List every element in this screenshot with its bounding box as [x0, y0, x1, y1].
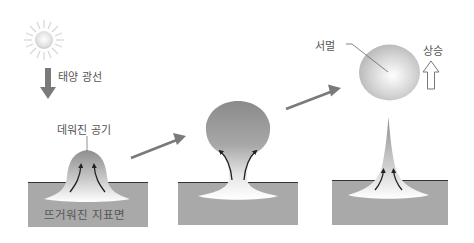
- heated-surface-label: 뜨거워진 지표면: [44, 206, 125, 222]
- arrow-right-up-icon: [131, 133, 186, 158]
- stage-2: [178, 101, 298, 225]
- sunlight-label: 태양 광선: [58, 68, 103, 84]
- stage-3: [332, 44, 448, 225]
- thermal-label: 서멀: [315, 37, 335, 53]
- arrow-right-up-icon: [286, 85, 341, 110]
- sun-icon: [24, 20, 64, 60]
- thermal-bubble: [359, 45, 420, 101]
- warmed-air-label: 데워진 공기: [57, 121, 112, 137]
- warm-air-dome: [44, 150, 130, 202]
- thermal-formation-diagram: 태양 광선 데워진 공기 뜨거워진 지표면 서멀 상승: [0, 0, 474, 243]
- arrow-up-outline-icon: [423, 61, 439, 89]
- arrow-down-icon: [40, 68, 56, 99]
- rising-label: 상승: [423, 42, 443, 58]
